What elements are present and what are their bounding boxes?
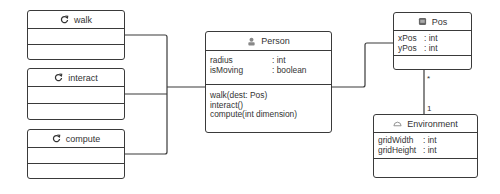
attribute-type: : int — [424, 44, 438, 54]
attributes-section: radius : int isMoving : boolean — [206, 51, 331, 85]
class-header: compute — [28, 130, 124, 148]
class-name: Environment — [407, 119, 458, 129]
attributes-section: xPos : int yPos : int — [394, 31, 471, 56]
class-name: Person — [261, 36, 290, 46]
attributes-section — [28, 148, 124, 164]
refresh-icon — [54, 73, 63, 82]
attributes-section — [28, 87, 124, 104]
person-icon — [247, 37, 256, 46]
methods-section — [28, 104, 124, 119]
attribute-type: : boolean — [272, 66, 306, 76]
class-interact[interactable]: interact — [27, 68, 125, 120]
square-icon — [418, 17, 427, 26]
class-person[interactable]: Person radius : int isMoving : boolean w… — [205, 31, 332, 133]
class-header: Pos — [394, 13, 471, 31]
attributes-section — [28, 29, 124, 45]
class-walk[interactable]: walk — [27, 10, 125, 60]
methods-section — [374, 159, 477, 165]
methods-section — [394, 56, 471, 62]
uml-diagram: * 1 walk interact compute Person — [0, 0, 500, 194]
class-environment[interactable]: Environment gridWidth : int gridHeight :… — [373, 114, 478, 178]
attributes-section: gridWidth : int gridHeight : int — [374, 133, 477, 159]
class-compute[interactable]: compute — [27, 129, 125, 179]
class-header: walk — [28, 11, 124, 29]
methods-section — [28, 45, 124, 59]
methods-section: walk(dest: Pos) interact() compute(int d… — [206, 85, 331, 123]
attribute-name: isMoving — [210, 66, 272, 76]
cloud-icon — [393, 119, 402, 128]
class-header: Person — [206, 32, 331, 51]
class-header: Environment — [374, 115, 477, 133]
class-pos[interactable]: Pos xPos : int yPos : int — [393, 12, 472, 70]
attribute-row: isMoving : boolean — [210, 66, 327, 76]
refresh-icon — [60, 15, 69, 24]
attribute-row: yPos : int — [398, 44, 467, 54]
multiplicity-many: * — [427, 74, 430, 83]
refresh-icon — [52, 134, 61, 143]
class-name: walk — [74, 15, 92, 25]
attribute-type: : int — [423, 146, 437, 156]
class-name: compute — [66, 134, 101, 144]
multiplicity-one: 1 — [427, 104, 431, 113]
attribute-row: gridHeight : int — [378, 146, 473, 156]
class-name: interact — [68, 73, 98, 83]
attribute-name: yPos — [398, 44, 424, 54]
class-header: interact — [28, 69, 124, 87]
methods-section — [28, 164, 124, 178]
method-row: compute(int dimension) — [210, 110, 327, 120]
class-name: Pos — [432, 17, 448, 27]
attribute-name: gridHeight — [378, 146, 423, 156]
